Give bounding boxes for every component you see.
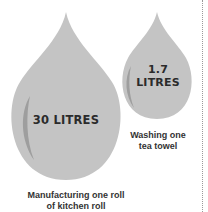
small-drop-value-number: 1.7 xyxy=(126,64,190,77)
small-caption-line1: Washing one xyxy=(122,130,194,141)
big-caption-line1: Manufacturing one roll xyxy=(22,190,130,201)
big-drop-caption: Manufacturing one roll of kitchen roll xyxy=(22,190,130,211)
small-caption-line2: tea towel xyxy=(122,141,194,152)
big-caption-line2: of kitchen roll xyxy=(22,201,130,212)
small-drop-value-unit: LITRES xyxy=(126,77,190,90)
drops-graphic xyxy=(0,0,208,212)
small-drop-value: 1.7 LITRES xyxy=(126,64,190,89)
small-drop-caption: Washing one tea towel xyxy=(122,130,194,151)
big-drop-value: 30 LITRES xyxy=(20,113,112,127)
dotted-divider xyxy=(202,0,203,212)
big-water-drop-icon xyxy=(11,12,120,180)
